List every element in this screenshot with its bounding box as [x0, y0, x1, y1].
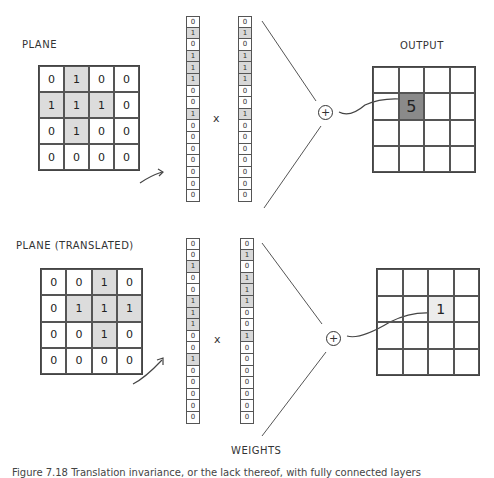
vector-cell: 1: [240, 284, 254, 296]
vector-cell: 0: [240, 389, 254, 401]
output-cell: [450, 93, 476, 119]
vector-cell: 0: [240, 308, 254, 320]
vector-cell: 0: [240, 400, 254, 412]
vector-cell: 0: [240, 377, 254, 389]
vector-cell: 0: [240, 238, 254, 250]
plane-cell: 0: [114, 66, 139, 92]
plane-translated-label: PLANE (TRANSLATED): [16, 240, 134, 251]
output-cell: [399, 67, 425, 93]
vector-cell: 0: [186, 377, 200, 389]
output-grid-translated: 1: [376, 268, 480, 376]
plane-cell: 0: [117, 322, 142, 348]
plane-cell: 1: [92, 322, 117, 348]
weights-vector: 0101110010000000: [240, 238, 254, 424]
plane-cell: 0: [66, 348, 91, 374]
plane-cell: 1: [64, 66, 89, 92]
input-vector-translated: 0010011100100000: [186, 238, 200, 424]
vector-cell: 0: [238, 190, 252, 202]
vector-cell: 0: [186, 238, 200, 250]
output-cell: [403, 322, 429, 349]
vector-cell: 1: [240, 250, 254, 262]
plane-cell: 0: [41, 322, 66, 348]
output-cell: [454, 269, 480, 296]
output-grid: 5: [372, 66, 476, 173]
plane-translated-grid: 0010011100100000: [40, 268, 143, 375]
output-cell: [424, 93, 450, 119]
vector-cell: 0: [240, 366, 254, 378]
output-cell: [424, 120, 450, 146]
sum-node-icon: +: [326, 331, 341, 346]
vector-cell: 0: [186, 120, 200, 132]
output-cell: [454, 322, 480, 349]
vector-cell: 1: [186, 62, 200, 74]
output-cell: [450, 146, 476, 172]
output-cell: [377, 322, 403, 349]
plane-cell: 0: [39, 66, 64, 92]
sum-node-icon: +: [318, 105, 333, 120]
output-cell: [403, 296, 429, 323]
plane-cell: 0: [41, 348, 66, 374]
vector-cell: 0: [186, 250, 200, 262]
plane-cell: 0: [92, 348, 117, 374]
plane-cell: 1: [92, 295, 117, 321]
output-cell: [377, 349, 403, 376]
output-cell: [377, 269, 403, 296]
output-cell: [377, 296, 403, 323]
vector-cell: 0: [186, 167, 200, 179]
plane-cell: 0: [117, 348, 142, 374]
output-cell: [403, 269, 429, 296]
vector-cell: 0: [186, 97, 200, 109]
vector-cell: 0: [186, 190, 200, 202]
plane-cell: 0: [41, 295, 66, 321]
vector-cell: 0: [240, 354, 254, 366]
vector-cell: 1: [238, 51, 252, 63]
vector-cell: 0: [186, 412, 200, 424]
plane-cell: 0: [66, 269, 91, 295]
vector-cell: 0: [238, 97, 252, 109]
vector-cell: 0: [238, 144, 252, 156]
multiply-sign: x: [213, 112, 220, 125]
plane-cell: 0: [41, 269, 66, 295]
vector-cell: 1: [238, 28, 252, 40]
weights-vector: 0101110010000000: [238, 16, 252, 202]
plane-grid: 0100111001000000: [38, 65, 140, 171]
plane-cell: 0: [114, 118, 139, 144]
vector-cell: 0: [186, 144, 200, 156]
output-label: OUTPUT: [400, 40, 444, 51]
vector-cell: 0: [186, 16, 200, 28]
plane-cell: 0: [117, 269, 142, 295]
vector-cell: 1: [186, 51, 200, 63]
plane-cell: 0: [66, 322, 91, 348]
weights-label: WEIGHTS: [231, 445, 281, 456]
vector-cell: 0: [240, 261, 254, 273]
vector-cell: 0: [186, 178, 200, 190]
vector-cell: 0: [238, 132, 252, 144]
vector-cell: 0: [240, 342, 254, 354]
vector-cell: 1: [186, 109, 200, 121]
vector-cell: 0: [238, 86, 252, 98]
output-cell: [403, 349, 429, 376]
output-cell: [399, 146, 425, 172]
vector-cell: 0: [186, 331, 200, 343]
input-vector: 0101110010000000: [186, 16, 200, 202]
plane-cell: 0: [39, 144, 64, 170]
vector-cell: 0: [186, 86, 200, 98]
vector-cell: 1: [186, 74, 200, 86]
output-cell: [424, 67, 450, 93]
vector-cell: 1: [186, 319, 200, 331]
vector-cell: 0: [240, 319, 254, 331]
plane-cell: 1: [89, 92, 114, 118]
multiply-sign: x: [214, 333, 221, 346]
output-cell: [428, 349, 454, 376]
vector-cell: 1: [240, 331, 254, 343]
output-cell: [373, 67, 399, 93]
output-cell: [428, 322, 454, 349]
vector-cell: 0: [186, 155, 200, 167]
output-cell: [428, 269, 454, 296]
vector-cell: 0: [186, 284, 200, 296]
output-cell: [373, 146, 399, 172]
plane-cell: 0: [89, 144, 114, 170]
output-cell: [424, 146, 450, 172]
plane-cell: 0: [89, 66, 114, 92]
plane-cell: 0: [114, 144, 139, 170]
